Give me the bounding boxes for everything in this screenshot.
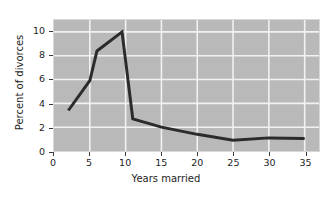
y-tick-label: 6 <box>25 74 45 84</box>
y-axis-title: Percent of divorces <box>14 18 25 148</box>
y-tick-mark <box>49 79 53 80</box>
y-tick-mark <box>49 128 53 129</box>
divorce-rate-line-chart: 0246810 05101520253035 Years married Per… <box>0 0 332 197</box>
x-tick-label: 25 <box>223 158 243 168</box>
y-tick-mark <box>49 104 53 105</box>
x-tick-label: 30 <box>259 158 279 168</box>
y-tick-label: 2 <box>25 123 45 133</box>
x-tick-mark <box>89 152 90 156</box>
x-tick-mark <box>161 152 162 156</box>
x-tick-label: 5 <box>79 158 99 168</box>
x-tick-mark <box>125 152 126 156</box>
y-tick-mark <box>49 31 53 32</box>
x-tick-label: 0 <box>43 158 63 168</box>
plot-svg <box>54 20 319 151</box>
x-tick-mark <box>197 152 198 156</box>
horizontal-gridlines <box>54 32 319 127</box>
x-tick-label: 20 <box>187 158 207 168</box>
y-tick-label: 10 <box>25 26 45 36</box>
y-tick-label: 4 <box>25 99 45 109</box>
y-tick-label: 8 <box>25 50 45 60</box>
y-tick-label: 0 <box>25 147 45 157</box>
x-tick-label: 10 <box>115 158 135 168</box>
x-tick-mark <box>53 152 54 156</box>
x-tick-label: 35 <box>296 158 316 168</box>
x-axis-title: Years married <box>0 173 332 184</box>
x-tick-mark <box>269 152 270 156</box>
plot-area <box>53 19 320 152</box>
x-tick-mark <box>233 152 234 156</box>
y-tick-mark <box>49 55 53 56</box>
x-tick-mark <box>306 152 307 156</box>
x-tick-label: 15 <box>151 158 171 168</box>
